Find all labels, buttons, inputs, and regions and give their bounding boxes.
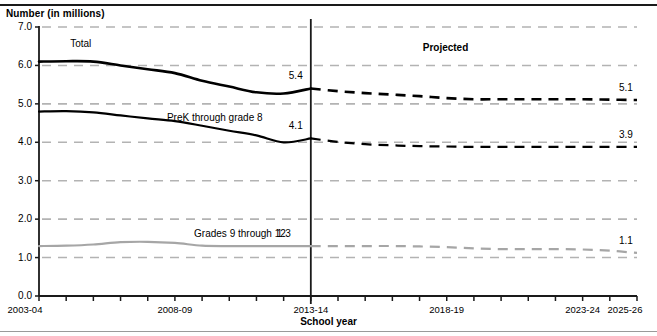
y-tick-label-6.0: 6.0: [2, 59, 32, 70]
x-tick-label-2025-26: 2025-26: [603, 304, 647, 315]
value-label-grades912-2013: 1.3: [277, 228, 291, 239]
x-tick-label-2013-14: 2013-14: [289, 304, 333, 315]
y-tick-label-3.0: 3.0: [2, 175, 32, 186]
y-tick-label-5.0: 5.0: [2, 98, 32, 109]
chart-figure: Number (in millions) 0.01.02.03.04.05.06…: [0, 0, 657, 336]
bottom-divider-rule: [0, 331, 657, 332]
x-tick-label-2008-09: 2008-09: [153, 304, 197, 315]
series-label-grades912: Grades 9 through 12: [194, 228, 286, 239]
y-tick-label-1.0: 1.0: [2, 252, 32, 263]
series-label-prek8: PreK through grade 8: [167, 112, 263, 123]
y-tick-label-2.0: 2.0: [2, 213, 32, 224]
y-tick-label-0.0: 0.0: [2, 290, 32, 301]
x-tick-label-2003-04: 2003-04: [3, 304, 47, 315]
series-line-actual-2: [39, 242, 311, 246]
value-label-total-2025: 5.1: [619, 82, 633, 93]
chart-plot-area: [0, 0, 657, 336]
x-axis-title: School year: [0, 316, 657, 327]
y-tick-label-4.0: 4.0: [2, 136, 32, 147]
projected-label: Projected: [423, 42, 469, 53]
value-label-prek8-2025: 3.9: [619, 129, 633, 140]
x-tick-label-2023-24: 2023-24: [561, 304, 605, 315]
value-label-grades912-2025: 1.1: [619, 235, 633, 246]
x-tick-label-2018-19: 2018-19: [425, 304, 469, 315]
value-label-total-2013: 5.4: [289, 70, 303, 81]
y-tick-label-7.0: 7.0: [2, 21, 32, 32]
series-label-total: Total: [70, 38, 91, 49]
series-line-projected-0: [311, 88, 637, 100]
series-line-projected-2: [311, 246, 637, 253]
value-label-prek8-2013: 4.1: [289, 120, 303, 131]
